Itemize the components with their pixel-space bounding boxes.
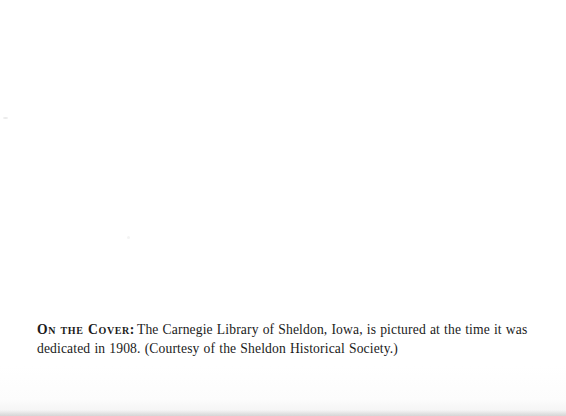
- scan-speck-artifact: [127, 236, 130, 239]
- cover-caption: On the Cover:The Carnegie Library of She…: [37, 320, 542, 358]
- scan-bottom-shadow: [0, 410, 566, 416]
- scan-speck-artifact: [3, 117, 8, 119]
- scanned-book-page: On the Cover:The Carnegie Library of She…: [0, 0, 566, 416]
- cover-caption-lead-label: On the Cover:: [37, 322, 135, 337]
